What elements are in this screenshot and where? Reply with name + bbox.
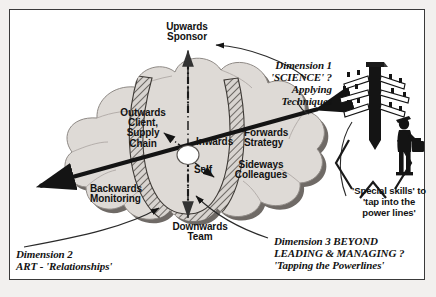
label-sideways: Sideways Colleagues <box>226 160 296 180</box>
label-outwards: Outwards Client, Supply Chain <box>112 108 174 149</box>
label-forwards: Forwards Strategy <box>244 128 306 148</box>
center-hub-node <box>177 146 199 165</box>
label-dimension-1: Dimension 1 'SCIENCE' ? Applying Techniq… <box>228 60 332 108</box>
label-dimension-3: Dimension 3 BEYOND LEADING & MANAGING ? … <box>274 235 436 271</box>
person-briefcase-icon <box>396 116 424 175</box>
label-dimension-2: Dimension 2 ART - 'Relationships' <box>16 248 176 272</box>
label-downwards: Downwards Team <box>164 222 236 242</box>
label-inwards: Inwards <box>196 137 248 147</box>
label-powerlines-note: 'Special skills' to 'tap into the power … <box>346 185 432 219</box>
label-upwards: Upwards Sponsor <box>150 22 224 42</box>
diagram-page: Upwards Sponsor Outwards Client, Supply … <box>0 0 436 297</box>
label-backwards: Backwards Monitoring <box>90 184 168 204</box>
